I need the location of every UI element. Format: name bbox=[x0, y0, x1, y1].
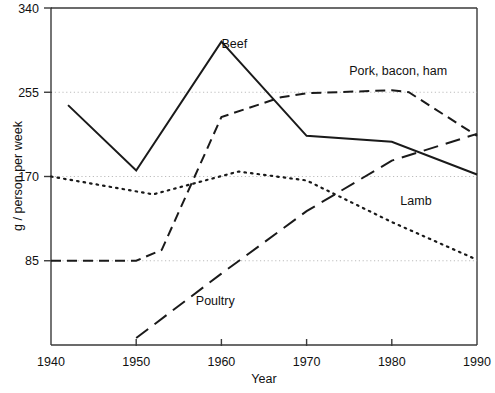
series-label-beef: Beef bbox=[221, 37, 247, 51]
x-tick-label: 1990 bbox=[463, 355, 491, 369]
x-tick-label: 1980 bbox=[378, 355, 406, 369]
chart-container: 85170255340 194019501960197019801990 Bee… bbox=[0, 0, 495, 393]
series-line-lamb bbox=[51, 172, 477, 260]
y-tick-label: 340 bbox=[18, 2, 39, 16]
gridlines bbox=[51, 92, 477, 261]
meat-consumption-line-chart: 85170255340 194019501960197019801990 Bee… bbox=[0, 0, 495, 393]
x-tick-label: 1970 bbox=[293, 355, 321, 369]
y-tick-label: 255 bbox=[18, 86, 39, 100]
x-tick-label: 1960 bbox=[207, 355, 235, 369]
y-tick-label: 85 bbox=[25, 254, 39, 268]
series-label-lamb: Lamb bbox=[400, 194, 431, 208]
x-axis-title: Year bbox=[251, 372, 276, 386]
x-tick-label: 1950 bbox=[122, 355, 150, 369]
x-tick-label: 1940 bbox=[37, 355, 65, 369]
series-line-poultry bbox=[136, 134, 477, 338]
x-axis-ticks: 194019501960197019801990 bbox=[37, 339, 491, 369]
data-series-group bbox=[51, 42, 477, 338]
series-line-beef bbox=[68, 42, 477, 175]
y-axis-title: g / person per week bbox=[11, 120, 25, 231]
series-label-pork-bacon-ham: Pork, bacon, ham bbox=[349, 64, 447, 78]
series-label-poultry: Poultry bbox=[196, 294, 236, 308]
